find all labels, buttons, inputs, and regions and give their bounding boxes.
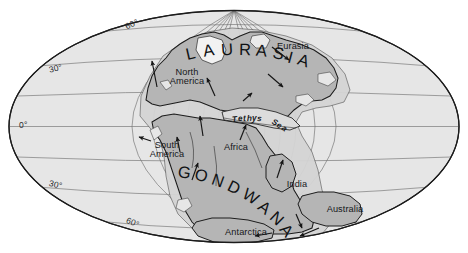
north-america-label: NorthAmerica	[164, 68, 210, 87]
antarctica-label-line1: Antarctica	[218, 228, 274, 237]
india-label: India	[281, 180, 313, 189]
eurasia-label-line1: Eurasia	[270, 42, 316, 51]
lat-0-equator-label: 0°	[19, 121, 28, 130]
eurasia-label: Eurasia	[270, 42, 316, 51]
africa-label: Africa	[216, 143, 256, 152]
laurasia-letter: U	[220, 40, 233, 60]
laurasia-letter: R	[239, 40, 251, 59]
south-america-label: SouthAmerica	[143, 141, 191, 160]
australia-label: Australia	[320, 205, 370, 214]
antarctica-label: Antarctica	[218, 228, 274, 237]
india-label-line1: India	[281, 180, 313, 189]
tethys-sea-letter: T	[232, 115, 238, 124]
tethys-sea-letter: s	[257, 114, 262, 123]
north-america-label-line2: America	[164, 77, 210, 86]
laurasia-letter: A	[255, 40, 268, 60]
map-canvas	[0, 0, 468, 253]
pangaea-map: 60°30°0°30°60° LAURASIAGONDWANA TethysSe…	[0, 0, 468, 253]
africa-label-line1: Africa	[216, 143, 256, 152]
gondwana-letter: G	[177, 162, 192, 183]
south-america-label-line2: America	[143, 150, 191, 159]
australia-label-line1: Australia	[320, 205, 370, 214]
tethys-sea-letter: t	[243, 114, 246, 123]
